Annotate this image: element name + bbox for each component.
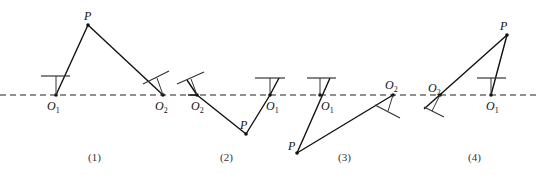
- label-p: P: [287, 139, 296, 153]
- label-o1: O1: [486, 99, 499, 115]
- label-o2: O2: [385, 78, 398, 94]
- label-o1: O1: [266, 99, 279, 115]
- label-p: P: [83, 9, 92, 23]
- caption-3: (3): [338, 151, 351, 164]
- diagram-canvas: P O1 O2 (1) P O2 O1 (2): [0, 0, 539, 175]
- label-o2: O2: [191, 99, 204, 115]
- figure-1: P O1 O2 (1): [41, 9, 169, 164]
- label-o1: O1: [47, 99, 60, 115]
- figure-3: P O1 O2 (3): [287, 78, 400, 164]
- mirror-o2-fig1: [143, 71, 169, 95]
- label-p: P: [499, 19, 508, 33]
- label-o2: O2: [155, 99, 168, 115]
- label-p: P: [239, 118, 248, 132]
- caption-1: (1): [88, 151, 101, 164]
- caption-2: (2): [220, 151, 233, 164]
- caption-4: (4): [468, 151, 481, 164]
- mirror-o1-fig2: [255, 78, 285, 95]
- figure-4: P O2 O1 (4): [424, 19, 509, 164]
- mirror-o1-fig4: [477, 78, 506, 95]
- label-o1: O1: [321, 99, 334, 115]
- mirror-o1-fig3: [307, 78, 336, 95]
- mirror-o1-fig1: [41, 76, 70, 95]
- label-o2: O2: [428, 81, 441, 97]
- figure-2: P O2 O1 (2): [177, 72, 285, 164]
- mirror-o2-fig2: [177, 72, 204, 84]
